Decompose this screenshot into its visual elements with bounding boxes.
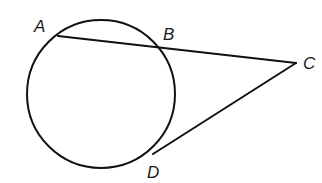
point-label-d: D: [147, 163, 159, 182]
point-label-b: B: [163, 25, 174, 44]
point-label-c: C: [303, 54, 316, 73]
point-label-a: A: [33, 17, 45, 36]
secant-line-ac: [58, 36, 296, 63]
circle: [27, 20, 175, 168]
geometry-diagram: A B C D: [0, 0, 322, 183]
